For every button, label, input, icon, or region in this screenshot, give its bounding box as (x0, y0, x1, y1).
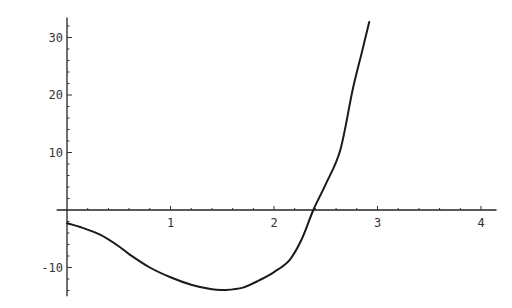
y-tick-label: 10 (49, 146, 63, 160)
x-tick-label: 4 (477, 216, 484, 230)
axis-ticks (67, 26, 481, 291)
y-tick-label: 20 (49, 88, 63, 102)
x-tick-label: 1 (167, 216, 174, 230)
x-tick-label: 3 (374, 216, 381, 230)
tick-labels: 1234-10102030 (41, 31, 484, 275)
line-chart: 1234-10102030 (0, 0, 512, 308)
x-tick-label: 2 (270, 216, 277, 230)
data-curve (67, 22, 369, 290)
y-tick-label: -10 (41, 261, 63, 275)
axes (57, 17, 497, 296)
y-tick-label: 30 (49, 31, 63, 45)
